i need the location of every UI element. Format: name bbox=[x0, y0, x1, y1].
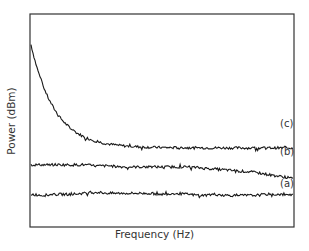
series-lines bbox=[31, 45, 293, 198]
y-axis-label: Power (dBm) bbox=[5, 87, 17, 154]
chart-plot-area bbox=[0, 0, 309, 251]
series-line-b bbox=[31, 164, 293, 179]
series-label-b: (b) bbox=[280, 146, 294, 157]
x-axis-label: Frequency (Hz) bbox=[0, 228, 309, 240]
series-line-c bbox=[31, 45, 293, 151]
series-label-a: (a) bbox=[280, 178, 294, 189]
series-label-c: (c) bbox=[280, 118, 293, 129]
series-line-a bbox=[31, 191, 293, 197]
